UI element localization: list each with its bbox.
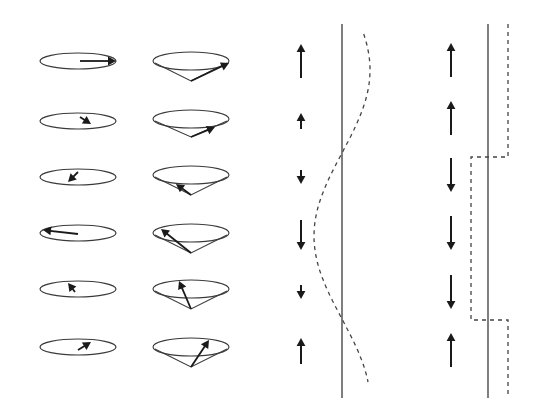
precession-ellipse-row <box>40 225 116 241</box>
moment-vector-arrow-icon <box>161 229 191 253</box>
spin-down-arrow-icon <box>447 158 456 192</box>
column-flat-precession <box>40 53 116 355</box>
arrowhead-icon <box>68 283 76 292</box>
arrowhead-icon <box>297 176 306 184</box>
spin-up-arrow-icon <box>447 333 456 367</box>
moment-vector-arrow-icon <box>68 283 76 292</box>
cone-sides <box>155 63 227 81</box>
arrowhead-icon <box>447 301 456 309</box>
arrowhead-icon <box>447 242 456 250</box>
precession-ellipse-row <box>40 169 116 185</box>
spin-up-arrow-icon <box>297 338 306 364</box>
precession-cone-row <box>153 166 229 195</box>
arrowhead-icon <box>297 338 306 346</box>
spin-wave-diagram <box>0 0 541 417</box>
orbit-ellipse <box>40 169 116 185</box>
cone-sides <box>155 291 227 309</box>
spin-up-arrow-icon <box>447 43 456 77</box>
precession-cone-row <box>153 280 229 309</box>
diagram-canvas <box>0 0 541 417</box>
arrowhead-icon <box>297 291 306 299</box>
moment-vector-arrow-icon <box>191 62 229 81</box>
column-square-wave-sdw <box>447 24 508 398</box>
precession-ellipse-row <box>40 53 116 69</box>
precession-cone-row <box>153 52 229 81</box>
precession-cone-row <box>153 224 229 253</box>
arrowhead-icon <box>297 113 306 121</box>
cone-sides <box>155 235 227 253</box>
moment-vector-arrow-icon <box>78 342 91 350</box>
arrowhead-icon <box>447 184 456 192</box>
spin-down-arrow-icon <box>297 285 306 299</box>
moment-vector-arrow-icon <box>43 227 78 236</box>
moment-vector-arrow-icon <box>178 281 191 309</box>
moment-vector-arrow-icon <box>80 57 116 66</box>
column-sinusoidal-sdw <box>297 24 370 398</box>
arrowhead-icon <box>447 43 456 51</box>
arrowhead-icon <box>447 101 456 109</box>
spin-up-arrow-icon <box>297 44 306 78</box>
orbit-ellipse <box>40 339 116 355</box>
cone-sides <box>155 349 227 367</box>
column-cone-precession <box>153 52 229 367</box>
cone-sides <box>155 177 227 195</box>
precession-cone-row <box>153 338 229 367</box>
cone-sides <box>155 121 227 137</box>
arrowhead-icon <box>447 333 456 341</box>
spin-down-arrow-icon <box>447 216 456 250</box>
spin-up-arrow-icon <box>447 101 456 135</box>
spin-down-arrow-icon <box>447 275 456 309</box>
precession-ellipse-row <box>40 339 116 355</box>
orbit-ellipse <box>40 281 116 297</box>
precession-ellipse-row <box>40 113 116 129</box>
arrowhead-icon <box>201 340 209 349</box>
spin-down-arrow-icon <box>297 220 306 250</box>
moment-vector-arrow-icon <box>80 116 91 124</box>
spin-up-arrow-icon <box>297 113 306 129</box>
moment-vector-arrow-icon <box>176 184 191 195</box>
arrowhead-icon <box>297 44 306 52</box>
orbit-ellipse <box>40 225 116 241</box>
square-wave-envelope-dashed <box>471 24 508 398</box>
precession-ellipse-row <box>40 281 116 297</box>
precession-cone-row <box>153 110 229 137</box>
arrowhead-icon <box>297 242 306 250</box>
moment-vector-arrow-icon <box>68 172 78 182</box>
orbit-ellipse <box>40 113 116 129</box>
spin-down-arrow-icon <box>297 170 306 184</box>
